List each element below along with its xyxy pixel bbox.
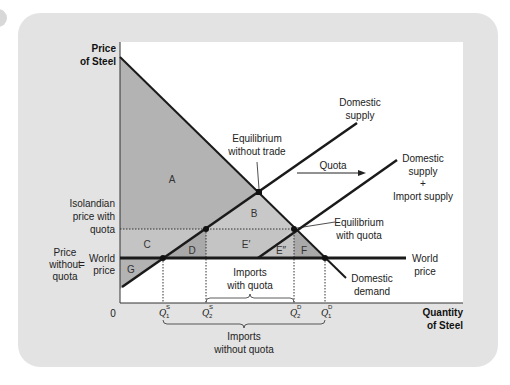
equilibrium-without-trade-point xyxy=(256,189,262,195)
quota-price-label-1: Isolandian xyxy=(69,198,115,209)
domestic-demand-label-2: demand xyxy=(354,286,390,297)
dom-import-supply-label-2: supply xyxy=(409,166,438,177)
world-price-right-label-2: price xyxy=(414,266,436,277)
area-b-label: B xyxy=(251,208,258,219)
domestic-supply-label-1: Domestic xyxy=(339,97,381,108)
price-without-quota-label-1: Price xyxy=(54,247,77,258)
domestic-demand-label-1: Domestic xyxy=(351,273,393,284)
world-price-left-label-1: World xyxy=(89,253,115,264)
price-without-quota-label-3: quota xyxy=(52,271,77,282)
page-marker xyxy=(0,9,7,27)
world-price-left-label-2: price xyxy=(93,265,115,276)
imports-without-quota-label-1: Imports xyxy=(227,331,260,342)
area-e-double-prime-label: E″ xyxy=(276,245,287,256)
quota-arrow-label: Quota xyxy=(319,160,347,171)
svg-text:S: S xyxy=(166,304,170,310)
area-g-label: G xyxy=(127,264,135,275)
area-d-label: D xyxy=(188,245,195,256)
dom-import-supply-label-3: + xyxy=(420,178,426,189)
eq-without-trade-label-1: Equilibrium xyxy=(232,133,281,144)
area-e-prime-label: E′ xyxy=(242,239,251,250)
origin-label: 0 xyxy=(110,308,116,319)
eq-with-quota-label-2: with quota xyxy=(335,230,382,241)
equals-sign: = xyxy=(79,259,85,270)
q1d-point xyxy=(322,255,328,261)
q1s-point xyxy=(160,255,166,261)
quota-diagram: Price of Steel Quantity of Steel 0 Isola… xyxy=(0,0,510,385)
svg-text:D: D xyxy=(328,304,333,310)
world-price-right-label-1: World xyxy=(412,253,438,264)
imports-with-quota-label-2: with quota xyxy=(226,280,273,291)
quota-price-label-2: price with xyxy=(73,211,115,222)
svg-text:S: S xyxy=(209,304,213,310)
area-c-label: C xyxy=(143,239,150,250)
area-a-label: A xyxy=(169,174,176,185)
x-axis-label-1: Quantity xyxy=(422,307,463,318)
imports-with-quota-label-1: Imports xyxy=(233,267,266,278)
x-axis-label-2: of Steel xyxy=(427,320,463,331)
area-f-label: F xyxy=(301,245,307,256)
eq-without-trade-label-2: without trade xyxy=(227,146,286,157)
imports-without-quota-label-2: without quota xyxy=(213,344,274,355)
dom-import-supply-label-1: Domestic xyxy=(402,153,444,164)
y-axis-label-1: Price xyxy=(92,43,117,54)
y-axis-label-2: of Steel xyxy=(80,56,116,67)
svg-text:D: D xyxy=(297,304,302,310)
dom-import-supply-label-4: Import supply xyxy=(393,191,453,202)
quota-price-label-3: quota xyxy=(90,224,115,235)
q2s-point xyxy=(203,226,209,232)
domestic-supply-label-2: supply xyxy=(346,110,375,121)
eq-with-quota-label-1: Equilibrium xyxy=(334,217,383,228)
equilibrium-with-quota-point xyxy=(291,226,297,232)
price-without-quota-label-2: without xyxy=(48,259,81,270)
